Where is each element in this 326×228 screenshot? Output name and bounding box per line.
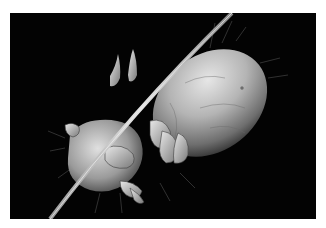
palp-right xyxy=(128,49,137,81)
mite-body xyxy=(132,27,289,179)
micrograph-frame xyxy=(10,13,316,219)
palp-left xyxy=(110,54,120,86)
mite-micrograph xyxy=(10,13,316,219)
